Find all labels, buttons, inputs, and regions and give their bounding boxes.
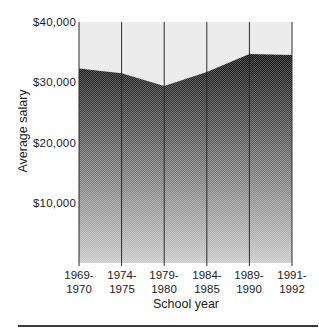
- x-tick-line2: 1970: [56, 283, 102, 297]
- x-tick-line2: 1992: [269, 283, 315, 297]
- x-axis-title: School year: [153, 297, 219, 311]
- x-tick-label-1979-1980: 1979- 1980: [141, 269, 187, 296]
- bottom-rule: [18, 325, 318, 327]
- x-tick-label-1991-1992: 1991- 1992: [269, 269, 315, 296]
- x-tick-line2: 1975: [99, 283, 145, 297]
- x-tick-label-1984-1985: 1984- 1985: [184, 269, 230, 296]
- x-tick-line1: 1974-: [99, 269, 145, 283]
- x-tick-line2: 1985: [184, 283, 230, 297]
- x-tick-label-1974-1975: 1974- 1975: [99, 269, 145, 296]
- x-tick-line1: 1984-: [184, 269, 230, 283]
- x-tick-label-1969-1970: 1969- 1970: [56, 269, 102, 296]
- x-tick-line1: 1989-: [226, 269, 272, 283]
- salary-area-chart: $40,000 $30,000 $20,000 $10,000 Average …: [0, 0, 319, 329]
- y-tick-label-40000: $40,000: [12, 15, 76, 29]
- x-tick-line1: 1979-: [141, 269, 187, 283]
- x-tick-label-1989-1990: 1989- 1990: [226, 269, 272, 296]
- x-tick-line2: 1980: [141, 283, 187, 297]
- x-tick-line1: 1991-: [269, 269, 315, 283]
- x-tick-line1: 1969-: [56, 269, 102, 283]
- y-tick-label-30000: $30,000: [12, 75, 76, 89]
- y-axis-title: Average salary: [16, 89, 30, 172]
- y-tick-label-10000: $10,000: [12, 196, 76, 210]
- x-tick-line2: 1990: [226, 283, 272, 297]
